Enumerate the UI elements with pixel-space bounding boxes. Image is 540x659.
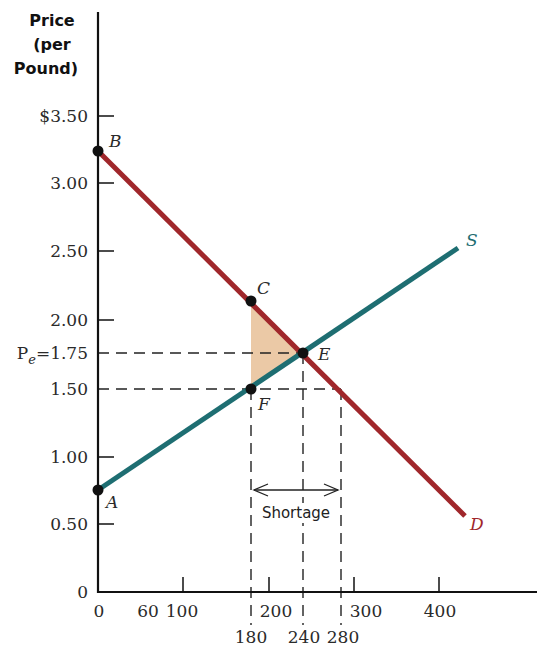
- supply-demand-chart: Price (per Pound) $3.50 3.00 2.50 2.00 P…: [0, 0, 540, 659]
- x-tick-300: 300: [350, 601, 382, 621]
- point-f-label: F: [257, 394, 271, 414]
- point-a-label: A: [104, 492, 118, 512]
- shortage-label: Shortage: [262, 504, 330, 522]
- y-ticks: [98, 116, 114, 524]
- shortage-arrow: [254, 484, 338, 496]
- point-e-label: E: [317, 344, 331, 364]
- demand-curve: [98, 151, 465, 516]
- point-b-marker: [93, 146, 104, 157]
- x-tick-280: 280: [327, 627, 359, 647]
- x-tick-180: 180: [235, 627, 267, 647]
- point-e-marker: [298, 348, 309, 359]
- x-tick-200: 200: [260, 601, 292, 621]
- demand-label: D: [469, 514, 484, 534]
- y-tick-100: 1.00: [50, 447, 88, 467]
- point-b-label: B: [108, 131, 122, 151]
- y-tick-050: 0.50: [50, 514, 88, 534]
- x-ticks: [183, 577, 439, 592]
- y-tick-200: 2.00: [50, 310, 88, 330]
- x-tick-60: 60: [137, 601, 159, 621]
- point-a-marker: [93, 485, 104, 496]
- x-tick-240: 240: [288, 627, 320, 647]
- point-c-label: C: [257, 278, 270, 298]
- y-axis-title-line2: (per: [33, 35, 71, 54]
- reference-lines: [98, 353, 341, 625]
- point-f-marker: [246, 384, 257, 395]
- y-tick-pe: Pe=1.75: [17, 343, 88, 367]
- x-tick-100: 100: [166, 601, 198, 621]
- y-axis-title-line3: Pound): [14, 59, 78, 78]
- y-tick-300: 3.00: [50, 173, 88, 193]
- points: [93, 146, 309, 496]
- supply-label: S: [466, 230, 478, 250]
- y-tick-350: $3.50: [39, 106, 88, 126]
- x-tick-0: 0: [94, 601, 105, 621]
- point-c-marker: [246, 296, 257, 307]
- x-tick-400: 400: [424, 601, 456, 621]
- y-tick-0: 0: [77, 582, 88, 602]
- y-axis-title-line1: Price: [29, 11, 75, 30]
- y-tick-250: 2.50: [50, 241, 88, 261]
- y-tick-150: 1.50: [50, 379, 88, 399]
